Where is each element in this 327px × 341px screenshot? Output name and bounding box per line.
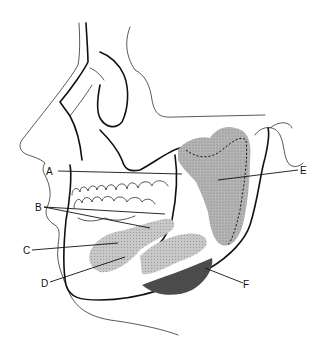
- label-f: F: [243, 279, 249, 290]
- zygomatic-line: [127, 27, 265, 117]
- orbit: [98, 52, 128, 127]
- label-c: C: [23, 245, 30, 256]
- leader-f: [205, 268, 243, 283]
- leader-a: [58, 171, 182, 174]
- condyle: [255, 123, 303, 167]
- label-d: D: [41, 278, 48, 289]
- parotid-gland: [178, 127, 250, 245]
- nasal-bone: [60, 23, 88, 160]
- anatomy-diagram: A B C D E F: [0, 0, 327, 341]
- label-a: A: [46, 166, 53, 177]
- label-e: E: [300, 165, 307, 176]
- label-b: B: [35, 202, 42, 213]
